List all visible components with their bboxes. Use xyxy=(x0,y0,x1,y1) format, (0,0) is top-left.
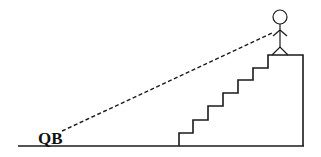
figure-legs xyxy=(272,47,288,55)
figure-arm-right xyxy=(280,30,287,36)
stick-figure xyxy=(272,10,288,55)
staircase xyxy=(179,55,303,146)
line-of-sight-dashed xyxy=(62,33,272,131)
figure-arm-left xyxy=(273,30,280,36)
qb-label: QB xyxy=(38,129,63,148)
figure-head xyxy=(273,10,287,24)
stairs-diagram: QB xyxy=(0,0,321,157)
